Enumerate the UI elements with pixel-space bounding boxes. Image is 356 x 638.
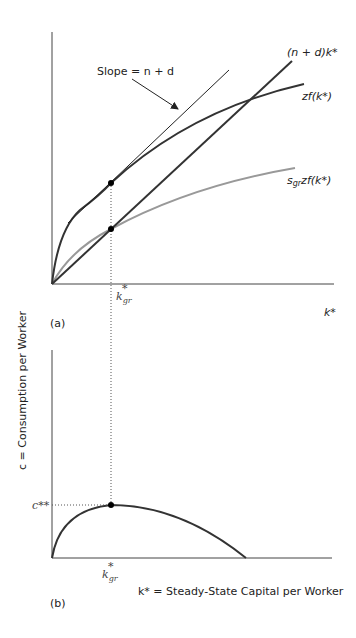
- panel-b-label: (b): [50, 597, 66, 610]
- zf-label: zf(k*): [301, 90, 332, 103]
- sgr-zf-label: sgrzf(k*): [287, 174, 331, 188]
- x-axis-label-b: k* = Steady-State Capital per Worker: [138, 585, 344, 598]
- max-consumption-point: [108, 502, 114, 508]
- panel-a-label: (a): [50, 317, 65, 330]
- kgr-star-a: *: [122, 282, 128, 295]
- diagram-svg: Slope = n + d (n + d)k* zf(k*) sgrzf(k*)…: [0, 0, 356, 638]
- golden-rule-diagram: Slope = n + d (n + d)k* zf(k*) sgrzf(k*)…: [0, 0, 356, 638]
- savings-intersection-point: [108, 226, 114, 232]
- kgr-star-b: *: [108, 560, 114, 573]
- n-plus-d-line: [52, 61, 292, 284]
- c-star-star-label: c**: [32, 499, 50, 512]
- slope-label: Slope = n + d: [97, 65, 174, 78]
- panel-a: Slope = n + d (n + d)k* zf(k*) sgrzf(k*)…: [50, 32, 338, 505]
- y-axis-label-b: c = Consumption per Worker: [16, 310, 29, 470]
- consumption-curve: [52, 505, 246, 558]
- slope-arrow: [132, 79, 178, 109]
- panel-b: c** kgr * k* = Steady-State Capital per …: [16, 310, 344, 610]
- zf-curve: [52, 84, 304, 284]
- sgr-zf-curve: [52, 168, 295, 284]
- n-plus-d-label: (n + d)k*: [287, 46, 338, 59]
- tangent-line: [68, 70, 229, 223]
- tangency-point: [108, 180, 114, 186]
- x-axis-label-a: k*: [324, 306, 336, 319]
